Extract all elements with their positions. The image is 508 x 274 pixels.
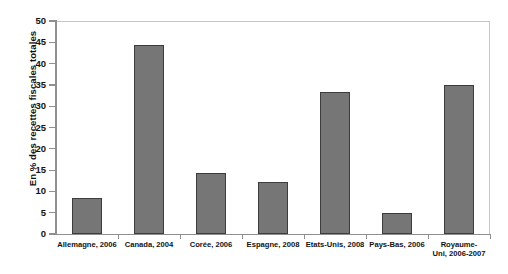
x-axis-category-label: Allemagne, 2006 xyxy=(52,240,122,249)
bar[interactable] xyxy=(258,182,288,234)
y-axis-tick-label: 0 xyxy=(20,228,46,239)
y-axis-tick-label: 10 xyxy=(20,185,46,196)
bar[interactable] xyxy=(444,85,474,234)
y-axis-tick xyxy=(49,84,55,85)
x-axis-tick xyxy=(366,234,367,239)
x-axis-label-line: Uni, 2006-2007 xyxy=(424,249,494,258)
x-axis-tick xyxy=(490,234,491,239)
bars-layer xyxy=(56,21,490,234)
y-axis-tick-label: 35 xyxy=(20,79,46,90)
y-axis-tick-label: 25 xyxy=(20,122,46,133)
x-axis-category-label: Espagne, 2008 xyxy=(238,240,308,249)
bar-slot xyxy=(428,21,490,234)
y-axis-tick-label: 45 xyxy=(20,36,46,47)
x-axis-tick xyxy=(304,234,305,239)
bar-chart: En % des recettes fiscales totales 05101… xyxy=(0,0,508,274)
y-axis-tick xyxy=(49,42,55,43)
y-axis-tick-label: 5 xyxy=(20,207,46,218)
y-axis-tick xyxy=(49,148,55,149)
x-axis-tick xyxy=(118,234,119,239)
bar-slot xyxy=(118,21,180,234)
x-axis-category-label: Corée, 2006 xyxy=(176,240,246,249)
y-axis-tick xyxy=(49,106,55,107)
y-axis-tick-label: 20 xyxy=(20,143,46,154)
x-axis-label-line: Canada, 2004 xyxy=(114,240,184,249)
y-axis-tick xyxy=(49,191,55,192)
x-axis-category-label: Royaume-Uni, 2006-2007 xyxy=(424,240,494,259)
x-axis-tick xyxy=(242,234,243,239)
bar[interactable] xyxy=(320,92,350,234)
x-axis-label-line: Corée, 2006 xyxy=(176,240,246,249)
y-axis-tick-label: 30 xyxy=(20,100,46,111)
y-axis-tick-label: 15 xyxy=(20,164,46,175)
y-axis-tick xyxy=(49,233,55,234)
bar-slot xyxy=(56,21,118,234)
bar[interactable] xyxy=(72,198,102,234)
y-axis-tick xyxy=(49,170,55,171)
x-axis-label-line: Royaume- xyxy=(424,240,494,249)
bar-slot xyxy=(242,21,304,234)
x-axis-tick xyxy=(180,234,181,239)
y-axis-tick xyxy=(49,127,55,128)
x-axis-category-label: Canada, 2004 xyxy=(114,240,184,249)
y-axis-tick xyxy=(49,212,55,213)
x-axis-category-label: Etats-Unis, 2008 xyxy=(300,240,370,249)
y-axis-tick-label: 50 xyxy=(20,15,46,26)
y-axis-tick-label: 40 xyxy=(20,58,46,69)
y-axis-tick xyxy=(49,63,55,64)
x-axis-label-line: Pays-Bas, 2006 xyxy=(362,240,432,249)
bar-slot xyxy=(180,21,242,234)
x-axis-label-line: Etats-Unis, 2008 xyxy=(300,240,370,249)
bar[interactable] xyxy=(382,213,412,234)
x-axis-label-line: Espagne, 2008 xyxy=(238,240,308,249)
bar[interactable] xyxy=(196,173,226,234)
bar[interactable] xyxy=(134,45,164,234)
x-axis-category-label: Pays-Bas, 2006 xyxy=(362,240,432,249)
x-axis-tick xyxy=(428,234,429,239)
x-axis-label-line: Allemagne, 2006 xyxy=(52,240,122,249)
y-axis-tick xyxy=(49,20,55,21)
bar-slot xyxy=(304,21,366,234)
bar-slot xyxy=(366,21,428,234)
